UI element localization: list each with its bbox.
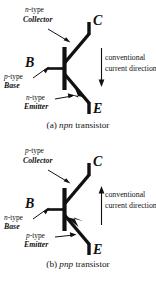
pnp-current-direction-note: conventional current direction <box>105 189 156 212</box>
pnp-collector-region-label: Collector <box>23 157 52 165</box>
pnp-collector-terminal-label: C <box>93 155 102 170</box>
pnp-current-arrow-head <box>99 186 105 194</box>
pnp-emitter-pointer-head <box>70 232 77 237</box>
pnp-base-region-label: Base <box>4 223 20 231</box>
pnp-emitter-terminal-label: E <box>93 243 102 258</box>
pnp-collector-pointer-head <box>64 178 71 183</box>
npn-current-arrow-head <box>99 80 105 88</box>
npn-emitter-region-label: Emitter <box>24 103 48 111</box>
npn-transistor-figure: n-type Collector C B p-type Base n-type … <box>0 0 156 142</box>
npn-emitter-pointer-head <box>68 93 75 98</box>
pnp-emitter-region-label: Emitter <box>24 241 48 249</box>
npn-base-terminal-label: B <box>25 56 34 71</box>
npn-collector-lead <box>65 34 90 63</box>
pnp-base-terminal-label: B <box>25 197 34 212</box>
npn-emitter-terminal-label: E <box>93 102 102 117</box>
npn-caption: (a) npn transistor <box>0 120 156 130</box>
pnp-collector-doping-label: p-type <box>25 147 44 155</box>
npn-collector-terminal-label: C <box>93 14 102 29</box>
npn-base-region-label: Base <box>4 82 20 90</box>
npn-current-direction-note: conventional current direction <box>105 52 156 75</box>
npn-collector-region-label: Collector <box>23 16 52 24</box>
pnp-collector-lead <box>65 175 90 204</box>
pnp-current-note-line2: current direction <box>105 200 156 211</box>
pnp-base-doping-label: n-type <box>4 214 23 222</box>
npn-emitter-doping-label: n-type <box>26 94 45 102</box>
npn-emitter-lead <box>65 74 90 103</box>
pnp-emitter-doping-label: p-type <box>26 232 45 240</box>
npn-collector-doping-label: n-type <box>25 6 44 14</box>
npn-current-note-line1: conventional <box>105 52 156 63</box>
pnp-transistor-figure: p-type Collector C B n-type Base p-type … <box>0 141 156 283</box>
pnp-current-note-line1: conventional <box>105 189 156 200</box>
npn-current-note-line2: current direction <box>105 63 156 74</box>
npn-collector-pointer-head <box>64 37 71 42</box>
pnp-caption: (b) pnp transistor <box>0 259 156 269</box>
npn-base-doping-label: p-type <box>4 73 23 81</box>
